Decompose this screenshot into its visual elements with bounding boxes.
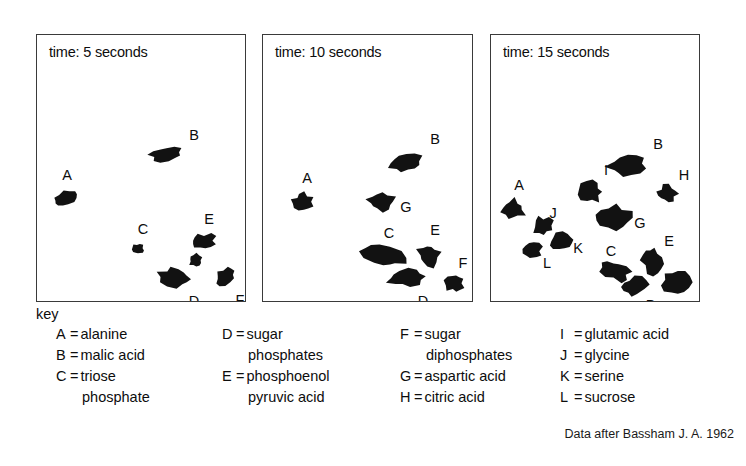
key-entry: F=sugar [400, 324, 572, 345]
panel-3: ABIHGJKLCDEFtime: 15 seconds [490, 34, 700, 302]
key-equals-sign: = [572, 368, 584, 384]
key-entry: A=alanine [56, 324, 226, 345]
key-entry: G=aspartic acid [400, 366, 572, 387]
spot-A [291, 191, 314, 210]
key-col-3: F=sugardiphosphatesG=aspartic acidH=citr… [400, 324, 572, 408]
key-equals-sign: = [68, 326, 80, 342]
spot-B [147, 147, 181, 163]
key-code: H [400, 387, 412, 408]
spot-label-D: D [189, 294, 199, 301]
spot-label-A: A [62, 168, 72, 183]
key-label: diphosphates [426, 347, 512, 363]
spot-label-C: C [138, 222, 148, 237]
key-label: triose [80, 368, 115, 384]
spot-label-L: L [543, 256, 551, 271]
panel-title: time: 10 seconds [275, 44, 381, 60]
spot-unlabeled [189, 253, 202, 267]
key-equals-sign: = [412, 389, 424, 405]
key-label: serine [584, 368, 624, 384]
spot-E [640, 248, 664, 277]
spot-label-B: B [653, 137, 663, 152]
spot-label-B: B [189, 128, 199, 143]
key-label: sugar [246, 326, 282, 342]
key-code: E [222, 366, 234, 387]
key-code: L [560, 387, 572, 408]
key-code: D [222, 324, 234, 345]
key-label: phosphate [82, 389, 150, 405]
key-code: C [56, 366, 68, 387]
key-equals-sign: = [234, 326, 246, 342]
spot-label-J: J [549, 206, 556, 221]
key-label: sugar [424, 326, 460, 342]
spot-K [550, 231, 573, 249]
key-entry: phosphate [56, 387, 226, 408]
key-label: alanine [80, 326, 127, 342]
spot-L [522, 242, 542, 258]
spot-C [132, 244, 144, 253]
key-code: A [56, 324, 68, 345]
spot-F [444, 276, 465, 292]
key-equals-sign: = [234, 368, 246, 384]
spot-G [365, 192, 396, 212]
key-block: key A=alanineB=malic acidC=triosephospha… [36, 306, 736, 411]
key-equals-sign: = [68, 347, 80, 363]
key-entry: K=serine [560, 366, 740, 387]
spot-G [596, 204, 633, 232]
spot-label-I: I [604, 163, 608, 178]
key-code: B [56, 345, 68, 366]
panel-title: time: 15 seconds [503, 44, 609, 60]
spot-H [656, 184, 679, 202]
key-entry: B=malic acid [56, 345, 226, 366]
panel-canvas: ABCDEFtime: 5 seconds [37, 35, 245, 301]
panel-1: ABCDEFtime: 5 seconds [36, 34, 246, 302]
key-label: phosphates [248, 347, 323, 363]
key-label: glutamic acid [584, 326, 669, 342]
key-code: I [560, 324, 572, 345]
key-code: F [400, 324, 412, 345]
spot-D [157, 267, 191, 289]
key-col-1: A=alanineB=malic acidC=triosephosphate [56, 324, 226, 408]
spot-D [386, 268, 426, 287]
panel-title: time: 5 seconds [49, 44, 148, 60]
spot-label-E: E [204, 212, 214, 227]
key-heading: key [36, 306, 59, 322]
spot-label-D: D [418, 294, 428, 301]
panel-canvas: ABGCDEFtime: 10 seconds [263, 35, 472, 301]
spot-label-G: G [400, 200, 411, 215]
spot-label-E: E [430, 223, 440, 238]
key-label: phosphoenol [246, 368, 329, 384]
key-label: pyruvic acid [248, 389, 325, 405]
spot-B [388, 154, 422, 173]
key-entry: diphosphates [400, 345, 572, 366]
spot-B [604, 155, 646, 177]
key-entry: J=glycine [560, 345, 740, 366]
spot-label-C: C [606, 244, 616, 259]
key-col-2: D=sugarphosphatesE=phosphoenolpyruvic ac… [222, 324, 392, 408]
key-equals-sign: = [68, 368, 80, 384]
spot-label-K: K [573, 241, 583, 256]
spot-label-H: H [679, 168, 689, 183]
spot-label-C: C [384, 226, 394, 241]
spot-F [216, 267, 234, 287]
spot-layer [263, 35, 472, 301]
spot-label-A: A [514, 178, 524, 193]
attribution-text: Data after Bassham J. A. 1962 [564, 427, 734, 441]
key-col-4: I=glutamic acidJ=glycineK=serineL=sucros… [560, 324, 740, 408]
spot-E [416, 247, 442, 269]
spot-A [54, 190, 77, 205]
panel-2: ABGCDEFtime: 10 seconds [262, 34, 473, 302]
spot-label-F: F [236, 293, 245, 301]
key-entry: E=phosphoenol [222, 366, 392, 387]
key-code: K [560, 366, 572, 387]
key-equals-sign: = [412, 368, 424, 384]
spot-A [500, 197, 526, 219]
key-entry: D=sugar [222, 324, 392, 345]
spot-label-D: D [646, 298, 656, 301]
key-equals-sign: = [412, 326, 424, 342]
key-label: sucrose [584, 389, 635, 405]
key-equals-sign: = [572, 326, 584, 342]
key-code: J [560, 345, 572, 366]
key-label: citric acid [424, 389, 484, 405]
spot-C [599, 261, 632, 283]
key-label: glycine [584, 347, 629, 363]
